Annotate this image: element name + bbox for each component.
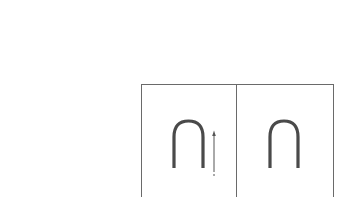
diagram-figure (0, 0, 350, 197)
up-arrow-icon (212, 131, 216, 177)
right-inverted-u-shape (270, 121, 298, 168)
left-inverted-u-shape (174, 121, 203, 168)
